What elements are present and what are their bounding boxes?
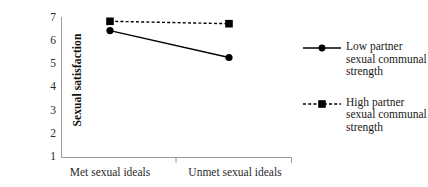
legend-label-high-partner-line2: sexual communal bbox=[346, 108, 428, 121]
data-point-high-partner-met bbox=[106, 18, 114, 26]
legend-label-high-partner-line1: High partner bbox=[346, 96, 428, 109]
legend-label-low-partner-line3: strength bbox=[346, 65, 428, 78]
legend-label-high-partner-line3: strength bbox=[346, 121, 428, 134]
data-point-low-partner-unmet bbox=[225, 54, 232, 61]
legend-marker-square-icon bbox=[318, 100, 326, 108]
legend-key-low-partner bbox=[302, 42, 342, 54]
x-tick-label-unmet: Unmet sexual ideals bbox=[170, 166, 300, 178]
legend-marker-circle-icon bbox=[319, 45, 326, 52]
series-line-low-partner bbox=[110, 31, 229, 58]
x-tick-label-met: Met sexual ideals bbox=[50, 166, 170, 178]
chart-figure: Sexual satisfaction 7 6 5 4 3 2 1 Met se… bbox=[0, 0, 428, 187]
legend-label-low-partner-line2: sexual communal bbox=[346, 53, 428, 66]
data-point-high-partner-unmet bbox=[225, 20, 233, 28]
legend-label-low-partner-line1: Low partner bbox=[346, 40, 428, 53]
chart-legend: Low partner sexual communal strength Hig… bbox=[302, 40, 428, 148]
data-point-low-partner-met bbox=[106, 27, 113, 34]
legend-entry-low-partner: Low partner sexual communal strength bbox=[302, 40, 428, 78]
legend-entry-high-partner: High partner sexual communal strength bbox=[302, 96, 428, 134]
legend-label-low-partner: Low partner sexual communal strength bbox=[346, 40, 428, 78]
series-line-high-partner bbox=[110, 21, 229, 23]
legend-key-high-partner bbox=[302, 98, 342, 110]
legend-label-high-partner: High partner sexual communal strength bbox=[346, 96, 428, 134]
